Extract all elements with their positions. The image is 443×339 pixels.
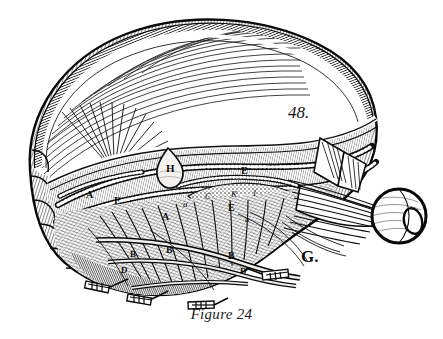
label-g: G. [301, 248, 318, 265]
label-b1: B [166, 245, 173, 255]
label-b3: B [228, 251, 235, 261]
plate-number: 48. [288, 103, 309, 123]
label-a2: a [245, 215, 250, 224]
label-k: K [231, 190, 237, 199]
label-c: C [205, 192, 211, 201]
label-a3: A [162, 212, 169, 222]
label-e1: E [241, 166, 248, 176]
label-a1: a [183, 200, 188, 209]
label-e2: E [228, 203, 235, 213]
label-a4: A [86, 190, 93, 200]
label-b2: B [130, 250, 136, 259]
label-f: F [114, 196, 120, 206]
label-d1: D [121, 266, 128, 275]
label-i: I [253, 189, 256, 198]
eyeball-globe [372, 189, 426, 243]
figure-caption: Figure 24 [0, 306, 443, 323]
label-d2: D [240, 267, 247, 276]
anatomical-engraving [0, 0, 443, 339]
label-h: H [166, 163, 175, 174]
figure-page: 48. HECKIEaaAAFBBBDDG. Figure 24 [0, 0, 443, 339]
